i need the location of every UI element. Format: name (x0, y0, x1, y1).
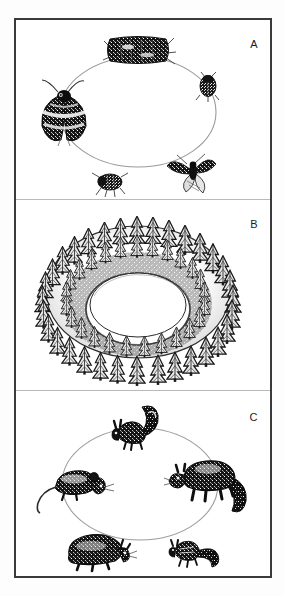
panel-a-label: A (250, 38, 258, 50)
marmot-icon (69, 535, 138, 571)
panel-b-label: B (250, 218, 258, 230)
beetle-icon (196, 72, 219, 102)
vole-icon (37, 471, 114, 513)
panel-b-diagram (16, 200, 270, 390)
figure-canvas: A (0, 0, 285, 596)
chipmunk-icon (169, 540, 219, 567)
panel-a: A (16, 20, 270, 198)
squirrel-icon (112, 406, 158, 450)
forest-clearing (90, 273, 186, 337)
panel-b: B (16, 200, 270, 390)
moth-resting-icon (42, 80, 86, 146)
caterpillar-icon (103, 37, 176, 65)
moth-flying-icon (167, 154, 216, 193)
panel-c: C (16, 391, 270, 576)
pupa-icon (92, 173, 128, 197)
figure-frame: A (14, 18, 272, 578)
panel-c-diagram (16, 391, 270, 576)
marten-icon (164, 461, 246, 512)
panel-c-label: C (250, 411, 258, 423)
panel-a-diagram (16, 20, 270, 198)
